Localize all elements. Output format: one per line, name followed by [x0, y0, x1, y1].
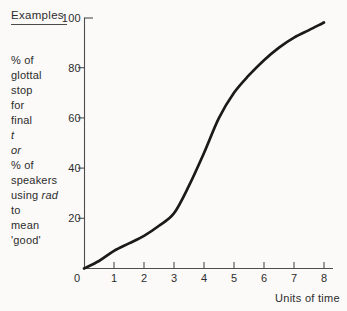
- s-curve-figure: Examples % ofglottalstopforfinaltor% ofs…: [0, 0, 347, 311]
- x-tick-label: 3: [164, 272, 184, 285]
- y-tick-label: 100: [49, 11, 81, 25]
- y-tick-label: 60: [49, 111, 81, 125]
- s-curve-plot: [0, 0, 347, 311]
- y-tick-label: 80: [49, 61, 81, 75]
- x-tick-label: 7: [284, 272, 304, 285]
- y-tick-label: 20: [49, 211, 81, 225]
- x-axis-title: Units of time: [275, 292, 340, 304]
- x-tick-label: 5: [224, 272, 244, 285]
- x-tick-label: 8: [314, 272, 334, 285]
- x-tick-label: 4: [194, 272, 214, 285]
- x-tick-label: 1: [104, 272, 124, 285]
- y-tick-label: 40: [49, 161, 81, 175]
- x-tick-label: 6: [254, 272, 274, 285]
- s-curve-line: [84, 23, 324, 269]
- x-tick-label: 0: [67, 272, 87, 285]
- x-tick-label: 2: [134, 272, 154, 285]
